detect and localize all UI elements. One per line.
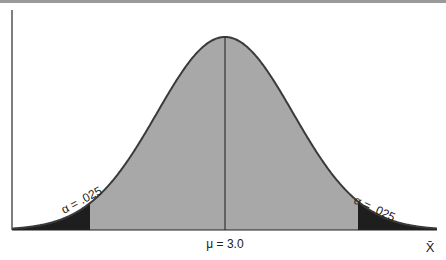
acceptance-region (90, 37, 358, 230)
normal-curve-chart: α = .025 α = .025 μ = 3.0 X̄ (0, 0, 446, 260)
mean-label: μ = 3.0 (206, 237, 244, 251)
x-axis-label: X̄ (426, 240, 435, 255)
